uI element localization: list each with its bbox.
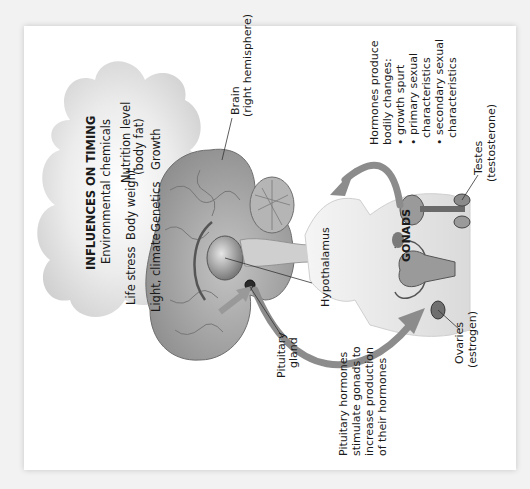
cloud-item-light-climate: Light, climate [149, 233, 163, 312]
hypothalamus-label: Hypothalamus [319, 227, 332, 307]
gonads-label: GONADS [400, 209, 413, 262]
bodily-changes-note: Hormones produce bodily changes: • growt… [368, 39, 459, 145]
testosterone-label: (testosterone) [485, 104, 498, 182]
ovaries-label: Ovaries [453, 322, 466, 364]
svg-text:• growth spurt: • growth spurt [394, 64, 407, 145]
cloud-item-environmental-chemicals: Environmental chemicals [99, 119, 113, 264]
svg-text:characteristics: characteristics [446, 57, 459, 138]
svg-text:• secondary sexual: • secondary sexual [433, 39, 446, 145]
testes-label: Testes [472, 141, 485, 176]
estrogen-label: (estrogen) [466, 311, 479, 368]
svg-text:Pituitary hormones: Pituitary hormones [337, 351, 350, 456]
cloud-item-life-stress: Life stress [124, 247, 138, 305]
cloud-item-nutrition-level: Nutrition level [119, 102, 133, 183]
brain-hemisphere-label: (right hemisphere) [241, 14, 254, 117]
pituitary-gland-label: gland [287, 337, 300, 368]
svg-text:increase production: increase production [363, 347, 376, 456]
svg-text:characteristics: characteristics [420, 57, 433, 138]
pituitary-hormones-note: Pituitary hormones stimulate gonads to i… [337, 346, 389, 456]
svg-text:bodily changes:: bodily changes: [381, 58, 394, 145]
cloud-item-genetics: Genetics [149, 182, 163, 232]
svg-text:stimulate gonads to: stimulate gonads to [350, 346, 363, 456]
puberty-hormone-diagram: INFLUENCES ON TIMING Environmental chemi… [0, 0, 530, 489]
cloud-title: INFLUENCES ON TIMING [84, 116, 98, 270]
testes-leader-line [462, 175, 478, 200]
svg-text:of their hormones: of their hormones [376, 358, 389, 456]
svg-text:Hormones produce: Hormones produce [368, 40, 381, 145]
svg-text:• primary sexual: • primary sexual [407, 53, 420, 145]
cloud-item-body-fat: (body fat) [132, 118, 146, 175]
brain-illustration [146, 149, 310, 360]
cloud-item-growth: Growth [149, 128, 163, 170]
